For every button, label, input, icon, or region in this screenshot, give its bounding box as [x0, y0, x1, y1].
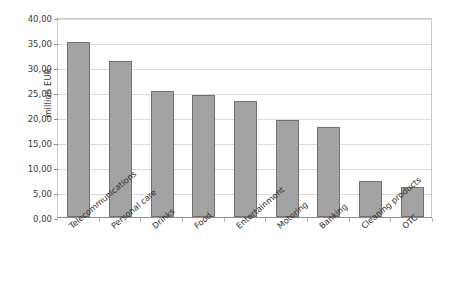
gridline — [58, 44, 431, 45]
x-axis-tick-mark — [307, 218, 308, 222]
y-axis-tick-mark — [54, 194, 58, 195]
bar — [151, 91, 174, 218]
x-axis-tick-mark — [390, 218, 391, 222]
bar-chart-figure: million EUR 0,005,0010,0015,0020,0025,00… — [0, 0, 452, 297]
gridline — [58, 19, 431, 20]
y-axis-tick-label: 10,00 — [6, 164, 58, 174]
bar — [234, 101, 257, 218]
x-axis-tick-mark — [432, 218, 433, 222]
bar — [401, 187, 424, 218]
plot-area: 0,005,0010,0015,0020,0025,0030,0035,0040… — [57, 18, 432, 218]
x-axis-tick-mark — [99, 218, 100, 222]
bar — [276, 120, 299, 217]
y-axis-tick-label: 30,00 — [6, 64, 58, 74]
x-axis-line — [57, 217, 432, 218]
y-axis-tick-label: 40,00 — [6, 14, 58, 24]
y-axis-tick-label: 5,00 — [6, 189, 58, 199]
y-axis-tick-mark — [54, 169, 58, 170]
bar — [359, 181, 382, 218]
x-axis-tick-mark — [182, 218, 183, 222]
y-axis-tick-mark — [54, 44, 58, 45]
x-axis-tick-mark — [265, 218, 266, 222]
x-axis-tick-mark — [140, 218, 141, 222]
bar — [67, 42, 90, 217]
y-axis-tick-mark — [54, 94, 58, 95]
bar — [109, 61, 132, 217]
y-axis-tick-mark — [54, 119, 58, 120]
y-axis-tick-label: 35,00 — [6, 39, 58, 49]
y-axis-tick-label: 15,00 — [6, 139, 58, 149]
y-axis-tick-mark — [54, 69, 58, 70]
y-axis-tick-mark — [54, 19, 58, 20]
y-axis-tick-label: 20,00 — [6, 114, 58, 124]
x-axis-tick-mark — [349, 218, 350, 222]
y-axis-tick-mark — [54, 144, 58, 145]
y-axis-tick-label: 25,00 — [6, 89, 58, 99]
x-axis-tick-mark — [224, 218, 225, 222]
bar — [317, 127, 340, 218]
y-axis-tick-label: 0,00 — [6, 214, 58, 224]
bar — [192, 95, 215, 218]
y-axis-tick-mark — [54, 219, 58, 220]
